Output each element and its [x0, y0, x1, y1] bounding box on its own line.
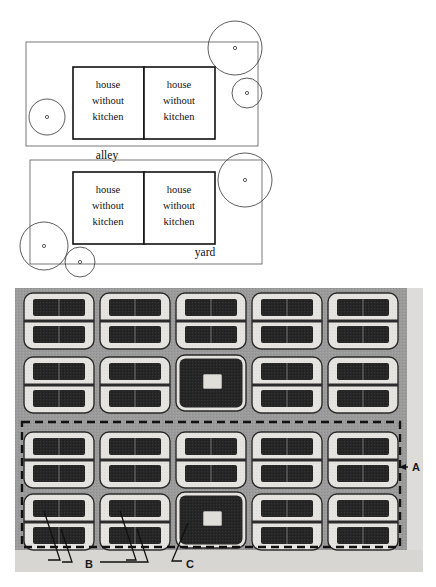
block-r2c3-courtyard: [176, 355, 246, 411]
lower-right-unit-line3: kitchen: [164, 216, 196, 227]
block-r3c3: [176, 432, 246, 488]
tree-lower-left-large: [20, 222, 68, 270]
lower-right-unit-line2: without: [163, 200, 195, 211]
lower-left-unit-line1: house: [96, 184, 121, 195]
block-r3c4: [252, 432, 322, 488]
upper-left-unit-line1: house: [96, 79, 121, 90]
tree-upper-right-large: [208, 21, 262, 75]
block-r1c1: [24, 293, 94, 349]
block-r3c2: [100, 432, 170, 488]
block-r4c1: [24, 494, 94, 550]
block-r2c1: [24, 357, 94, 413]
block-row-1: [24, 293, 398, 349]
block-r4c3-courtyard: [176, 492, 246, 548]
tree-lower-right: [218, 153, 272, 207]
block-r4c2: [100, 494, 170, 550]
block-r4c4: [252, 494, 322, 550]
block-r2c2: [100, 357, 170, 413]
lower-left-unit-line3: kitchen: [93, 216, 125, 227]
lower-right-unit-line1: house: [167, 184, 192, 195]
block-r3c5: [328, 432, 398, 488]
upper-left-unit-line3: kitchen: [93, 111, 125, 122]
block-r1c5: [328, 293, 398, 349]
block-r1c4: [252, 293, 322, 349]
tree-lower-left-small: [65, 247, 95, 277]
callout-b-label: B: [85, 558, 93, 570]
block-row-4: [24, 492, 398, 550]
block-row-2: [24, 355, 398, 413]
photo-right-band: [407, 288, 423, 550]
callout-a-label: A: [412, 461, 420, 473]
block-r1c2: [100, 293, 170, 349]
photo-margin-band: [15, 550, 423, 572]
block-row-3: [24, 432, 398, 488]
block-r1c3: [176, 293, 246, 349]
tree-upper-right-small: [232, 78, 262, 108]
block-r2c4: [252, 357, 322, 413]
upper-right-unit-line1: house: [167, 79, 192, 90]
callout-c-label: C: [186, 558, 194, 570]
block-r2c5: [328, 357, 398, 413]
lower-left-unit-line2: without: [92, 200, 124, 211]
upper-left-unit-line2: without: [92, 95, 124, 106]
plan-upper: house without kitchen house without kitc…: [26, 21, 262, 162]
plan-lower-open-space-label: yard: [195, 246, 216, 259]
block-r4c5: [328, 494, 398, 550]
upper-right-unit-line3: kitchen: [164, 111, 196, 122]
figure-top-site-plans: house without kitchen house without kitc…: [0, 0, 436, 285]
plan-lower: house without kitchen house without kitc…: [20, 153, 272, 277]
upper-right-unit-line2: without: [163, 95, 195, 106]
figure-bottom-aerial-model: A B C: [0, 285, 436, 587]
tree-upper-left: [29, 99, 65, 135]
block-r3c1: [24, 432, 94, 488]
